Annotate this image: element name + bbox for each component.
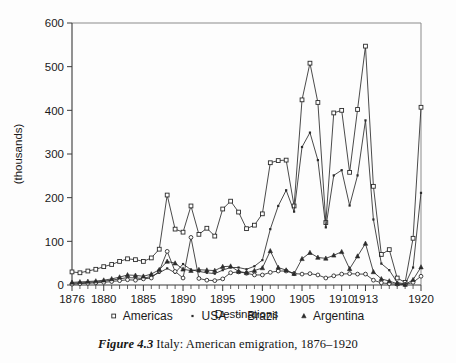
data-point-marker [332,274,336,278]
data-point-marker [325,226,327,228]
data-point-marker [149,272,153,276]
data-point-marker [316,273,320,277]
data-point-marker [411,236,415,240]
y-tick-label: 100 [45,236,64,248]
data-point-marker [364,44,368,48]
data-point-marker [302,314,306,318]
data-point-marker [324,276,328,280]
data-point-marker [166,267,168,269]
data-point-marker [341,169,343,171]
data-point-marker [149,276,153,280]
data-point-marker [70,270,74,274]
data-point-marker [300,98,304,102]
data-point-marker [181,276,185,280]
data-point-marker [134,278,138,282]
data-point-marker [308,61,312,65]
data-point-marker [237,210,241,214]
data-point-marker [189,236,193,240]
data-point-marker [197,277,201,281]
x-tick-label: 1913 [353,293,379,305]
data-point-marker [363,241,367,245]
y-tick-label: 500 [45,61,64,73]
data-point-marker [339,249,343,253]
data-point-marker [332,111,336,115]
data-point-marker [213,279,217,283]
series-line [72,237,421,284]
data-point-marker [191,315,193,317]
data-point-marker [141,260,145,264]
x-tick-label: 1890 [170,293,196,305]
data-point-marker [205,278,209,282]
data-point-marker [276,269,280,273]
data-point-marker [388,269,390,271]
data-point-marker [277,205,279,207]
data-point-marker [356,272,360,276]
data-point-marker [214,273,216,275]
data-point-marker [118,260,122,264]
data-point-marker [253,273,257,277]
y-tick-label: 600 [45,17,64,29]
data-point-marker [371,270,375,274]
data-point-marker [86,269,90,273]
data-point-marker [149,256,153,260]
series-argentina [70,241,423,286]
legend-item-americas[interactable]: Americas [112,309,173,323]
data-point-marker [419,274,423,278]
data-point-marker [102,265,106,269]
data-point-marker [284,158,288,162]
y-tick-label: 200 [45,192,64,204]
data-point-marker [112,314,116,318]
data-point-marker [205,226,209,230]
figure-caption-text: Italy: American emigration, 1876–1920 [156,337,358,351]
data-point-marker [293,211,295,213]
y-axis-label: (thousands) [12,123,24,184]
data-point-marker [182,263,184,265]
data-point-marker [221,277,225,281]
legend-item-argentina[interactable]: Argentina [302,309,365,323]
data-point-marker [197,232,201,236]
y-tick-label: 300 [45,148,64,160]
data-point-marker [419,105,423,109]
legend-item-usa[interactable]: USA [191,309,226,323]
data-point-marker [364,272,368,276]
x-tick-label: 1910 [329,293,355,305]
data-point-marker [253,223,257,227]
data-point-marker [269,228,271,230]
legend-label: USA [202,309,227,323]
data-point-marker [126,257,130,261]
data-point-marker [134,258,138,262]
data-point-marker [229,271,233,275]
data-point-marker [173,227,177,231]
data-point-marker [181,230,185,234]
x-tick-label: 1920 [408,293,434,305]
data-point-marker [245,227,249,231]
y-tick-label: 0 [58,279,64,291]
data-point-marker [395,276,399,280]
data-point-marker [308,250,312,254]
figure-caption: Figure 4.3Italy: American emigration, 18… [0,337,456,352]
data-point-marker [94,267,98,271]
data-point-marker [419,265,423,269]
data-point-marker [340,272,344,276]
data-point-marker [237,266,239,268]
data-point-marker [285,189,287,191]
x-tick-label: 1905 [289,293,315,305]
data-point-marker [110,263,114,267]
y-tick-label: 400 [45,105,64,117]
data-point-marker [276,265,280,269]
legend-label: Americas [123,309,173,323]
data-point-marker [372,278,376,282]
data-point-marker [308,272,312,276]
figure-number: Figure 4.3 [98,337,153,351]
emigration-line-chart: 0100200300400500600187618801885189018951… [0,0,456,337]
data-point-marker [268,161,272,165]
data-point-marker [268,249,272,253]
legend-label: Brazil [247,309,277,323]
data-point-marker [189,204,193,208]
x-tick-label: 1880 [91,293,117,305]
data-point-marker [173,270,177,274]
data-point-marker [356,108,360,112]
data-point-marker [348,272,352,276]
data-point-marker [309,132,311,134]
data-point-marker [387,248,391,252]
